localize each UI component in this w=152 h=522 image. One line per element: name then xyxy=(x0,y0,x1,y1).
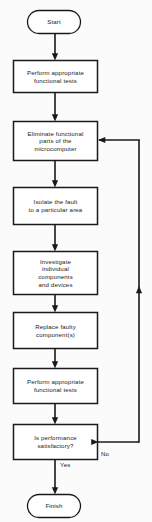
flowchart-diagram: Start Perform appropriate functional tes… xyxy=(0,0,152,522)
arrowhead-isolate-to-investigate xyxy=(52,244,58,251)
node-replace-faulty-component-shape xyxy=(14,313,98,349)
arrowhead-eliminate-to-isolate xyxy=(52,180,58,187)
arrowhead-feedback-into-eliminate xyxy=(98,137,105,143)
arrowhead-investigate-to-replace xyxy=(52,305,58,312)
node-isolate-fault-shape xyxy=(14,188,98,225)
node-is-performance-satisfactory-shape xyxy=(14,425,98,460)
node-eliminate-functional-parts-shape xyxy=(14,122,98,161)
node-start-shape xyxy=(28,11,81,34)
flowchart-canvas xyxy=(0,0,152,522)
node-finish-shape xyxy=(28,495,81,518)
arrowhead-feedback-riser-midpoint xyxy=(136,286,142,293)
arrowhead-start-to-perform-tests-1 xyxy=(52,53,58,60)
arrowhead-decision-to-finish-yes xyxy=(52,487,58,494)
arrowhead-perform-tests-1-to-eliminate xyxy=(52,114,58,121)
node-perform-tests-1-shape xyxy=(14,61,98,93)
arrowhead-perform-tests-2-to-decision xyxy=(52,417,58,424)
node-investigate-components-shape xyxy=(14,252,98,295)
node-perform-tests-2-shape xyxy=(14,369,98,404)
arrowhead-replace-to-perform-tests-2 xyxy=(52,361,58,368)
